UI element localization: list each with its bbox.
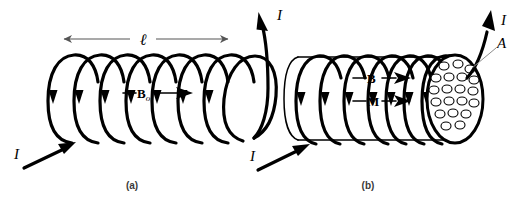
current-arrowhead: [405, 92, 414, 106]
current-arrowhead: [153, 90, 162, 104]
m-field-label: M: [367, 94, 379, 109]
area-leader-line: [472, 48, 496, 68]
b-naught-subscript: o: [146, 93, 151, 103]
caption-a: (a): [126, 180, 138, 191]
field-arrow-m: [353, 95, 411, 107]
current-arrowhead-out: [482, 10, 495, 31]
current-lead-out-a: [254, 12, 268, 138]
current-arrowhead-out: [257, 12, 269, 31]
b-naught-label: Bo: [137, 86, 151, 103]
physics-figure: ℓ Bo I I (a): [0, 0, 513, 203]
current-label-in-b: I: [249, 148, 256, 164]
current-lead-in-a: [24, 142, 76, 168]
current-arrowhead: [387, 92, 396, 106]
current-arrowhead: [127, 90, 136, 104]
length-label: ℓ: [140, 31, 147, 48]
panel-b-group: B M A I I (b): [249, 10, 507, 191]
current-arrowhead: [101, 90, 110, 104]
current-label-out-b: I: [500, 12, 507, 28]
b-naught-symbol: B: [137, 86, 146, 101]
current-arrowhead: [49, 90, 58, 104]
b-field-label: B: [367, 71, 376, 86]
current-arrowhead: [205, 90, 214, 104]
current-label-in-a: I: [13, 146, 20, 162]
current-arrowhead-in: [292, 144, 310, 156]
panel-a-group: ℓ Bo I I (a): [13, 7, 283, 191]
current-arrowhead: [75, 90, 84, 104]
current-arrowhead: [297, 92, 306, 106]
field-arrow-b: [353, 72, 411, 84]
area-label: A: [496, 35, 507, 51]
current-arrowhead: [321, 92, 330, 106]
current-arrowhead: [345, 92, 354, 106]
current-label-out-a: I: [276, 7, 283, 23]
caption-b: (b): [362, 180, 375, 191]
current-lead-in-b: [258, 144, 310, 170]
coil-turns-a: [48, 55, 276, 143]
figure-canvas: ℓ Bo I I (a): [0, 0, 513, 203]
